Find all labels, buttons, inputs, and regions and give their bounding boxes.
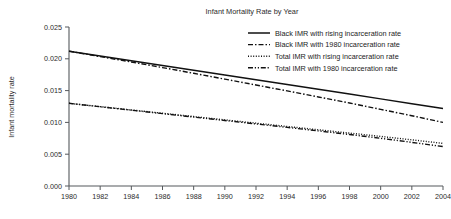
x-tick-label: 1996 (310, 192, 326, 201)
x-tick-label: 1998 (342, 192, 358, 201)
x-tick-label: 1984 (123, 192, 139, 201)
legend-label-3: Total IMR with 1980 incarceration rate (275, 64, 397, 73)
x-tick-label: 1986 (155, 192, 171, 201)
y-tick-label: 0.000 (44, 182, 62, 191)
x-tick-label: 2002 (404, 192, 420, 201)
x-tick-label: 1994 (279, 192, 295, 201)
x-tick-label: 1990 (217, 192, 233, 201)
x-tick-label: 2004 (435, 192, 451, 201)
chart-figure: Infant Mortality Rate by Year Infant mor… (0, 0, 451, 219)
x-tick-label: 1988 (186, 192, 202, 201)
series-line-3 (69, 103, 443, 146)
chart-title: Infant Mortality Rate by Year (206, 7, 299, 16)
y-axis-label: Infant mortality rate (7, 76, 16, 138)
legend-label-0: Black IMR with rising incarceration rate (275, 29, 401, 38)
series-line-1 (69, 51, 443, 122)
x-axis-ticks: 1980198219841986198819901992199419961998… (61, 186, 451, 201)
x-tick-label: 2000 (373, 192, 389, 201)
y-tick-label: 0.005 (44, 150, 62, 159)
x-tick-label: 1980 (61, 192, 77, 201)
infant-mortality-line-chart: Infant Mortality Rate by Year Infant mor… (0, 0, 451, 219)
legend-label-2: Total IMR with rising incarceration rate (275, 52, 399, 61)
legend-label-1: Black IMR with 1980 incarceration rate (275, 40, 400, 49)
y-tick-label: 0.010 (44, 118, 62, 127)
y-tick-label: 0.025 (44, 23, 62, 32)
y-tick-label: 0.020 (44, 54, 62, 63)
y-axis-ticks: 0.0000.0050.0100.0150.0200.025 (44, 23, 69, 191)
x-tick-label: 1982 (92, 192, 108, 201)
y-tick-label: 0.015 (44, 86, 62, 95)
chart-legend: Black IMR with rising incarceration rate… (248, 29, 401, 73)
x-tick-label: 1992 (248, 192, 264, 201)
series-line-2 (69, 103, 443, 143)
